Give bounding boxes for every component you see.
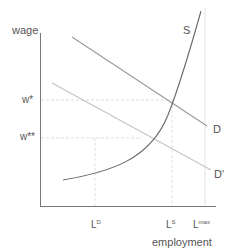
- demand-curve-label: D: [213, 124, 221, 135]
- labor-market-diagram: [0, 0, 236, 252]
- demand-curve-D-prime: [52, 83, 211, 170]
- supply-curve-S: [63, 11, 201, 180]
- LD-label-sup: D: [97, 219, 101, 225]
- w-star-label: w*: [22, 95, 33, 105]
- y-axis-label: wage: [12, 25, 38, 36]
- x-axis-label: employment: [152, 237, 212, 248]
- w-star-star-label: w**: [20, 132, 35, 142]
- LS-label: LS: [166, 219, 176, 230]
- supply-curve-label: S: [183, 25, 190, 36]
- LD-label: LD: [91, 219, 101, 230]
- Lmax-label-sup: max: [199, 219, 210, 225]
- LS-label-sup: S: [172, 219, 176, 225]
- demand-shifted-curve-label: D': [214, 169, 224, 180]
- Lmax-label: Lmax: [193, 219, 210, 230]
- demand-curve-D: [72, 37, 207, 126]
